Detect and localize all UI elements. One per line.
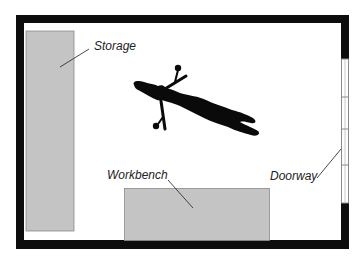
doorway-label: Doorway: [270, 170, 317, 182]
wall-top: [16, 15, 349, 23]
doorway-leader: [317, 149, 341, 178]
person-silhouette: [134, 65, 259, 136]
storage-unit: [26, 31, 74, 231]
doorway: [342, 59, 349, 203]
wall-left: [16, 15, 24, 249]
workbench-label: Workbench: [107, 169, 168, 181]
storage-label: Storage: [94, 40, 136, 52]
wall-right-upper: [341, 15, 349, 59]
wall-right-lower: [341, 203, 349, 249]
floor-plan: [0, 0, 359, 262]
workbench: [125, 189, 270, 241]
leader-lines: [60, 49, 341, 208]
wall-bottom: [16, 240, 349, 249]
